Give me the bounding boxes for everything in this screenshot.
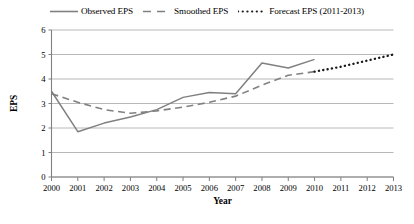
- x-tick-label: 2007: [227, 183, 245, 193]
- y-tick-label: 0: [41, 172, 45, 182]
- y-tick-label: 4: [41, 74, 46, 84]
- x-axis-title: Year: [213, 196, 232, 206]
- x-tick-label: 2000: [43, 183, 60, 193]
- y-tick-label: 3: [41, 99, 45, 109]
- x-tick-label: 2005: [174, 183, 191, 193]
- series-line-dashed: [52, 72, 315, 114]
- chart-canvas: 0123456 20002001200220032004200520062007…: [0, 0, 414, 224]
- y-tick-label: 2: [41, 123, 45, 133]
- x-tick-label: 2002: [96, 183, 113, 193]
- series-line-dotted: [315, 55, 394, 72]
- x-tick-label: 2004: [148, 183, 166, 193]
- y-axis-title: EPS: [9, 95, 19, 112]
- x-tick-label: 2012: [359, 183, 376, 193]
- x-tick-label: 2008: [253, 183, 270, 193]
- x-tick-label: 2006: [201, 183, 219, 193]
- x-tick-label: 2003: [122, 183, 139, 193]
- x-tick-label: 2013: [385, 183, 402, 193]
- data-series-layer: [52, 55, 394, 132]
- x-axis-ticks: [52, 177, 394, 181]
- series-line-solid: [52, 59, 315, 131]
- y-tick-label: 1: [41, 148, 45, 158]
- eps-chart-figure: Observed EPS Smoothed EPS Forecast EPS (…: [0, 0, 414, 224]
- plot-area: 0123456 20002001200220032004200520062007…: [0, 0, 414, 224]
- x-tick-label: 2009: [280, 183, 297, 193]
- x-axis-tick-labels: 2000200120022003200420052006200720082009…: [43, 183, 402, 193]
- x-tick-label: 2001: [69, 183, 86, 193]
- y-tick-label: 5: [41, 50, 45, 60]
- y-axis-tick-labels: 0123456: [41, 25, 46, 182]
- x-tick-label: 2011: [332, 183, 349, 193]
- y-tick-label: 6: [41, 25, 46, 35]
- x-tick-label: 2010: [306, 183, 323, 193]
- gridlines: [52, 30, 394, 177]
